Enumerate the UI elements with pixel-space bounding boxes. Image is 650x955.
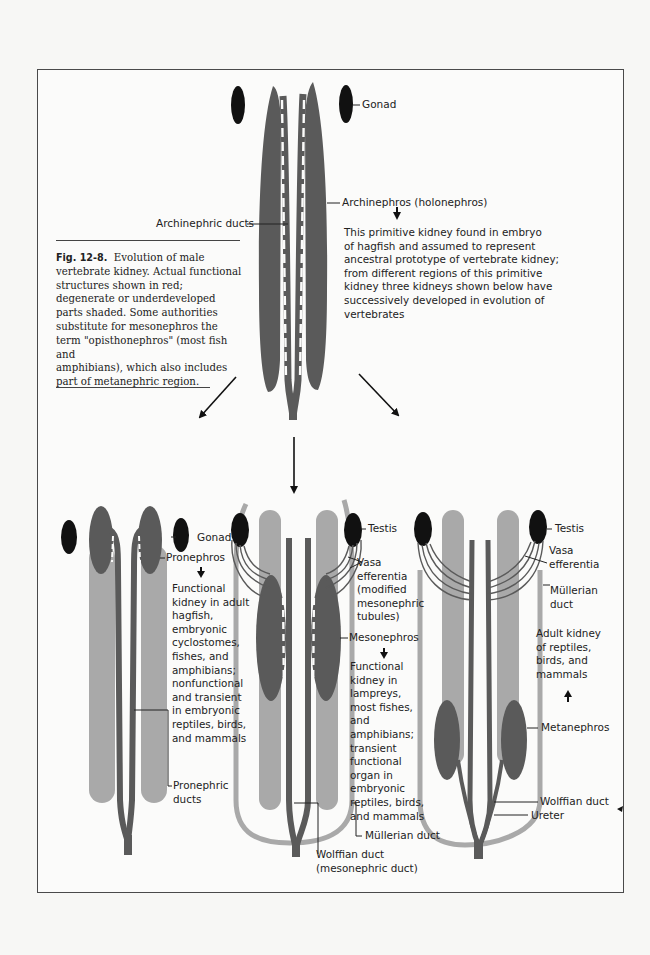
- label-wolffian-duct-mesonephros: Wolffian duct (mesonephric duct): [316, 848, 418, 875]
- metanephros-diagram: [414, 510, 547, 859]
- pronephric-duct-right: [128, 530, 141, 842]
- pronephros-right: [138, 506, 162, 574]
- figure-number: Fig. 12-8.: [56, 252, 107, 263]
- label-gonad: Gonad: [362, 98, 396, 112]
- label-wolffian-duct-metanephros: Wolffian duct: [540, 795, 609, 809]
- label-pronephric-ducts: Pronephric ducts: [173, 779, 229, 806]
- caption-rule-top: [56, 240, 240, 241]
- wolffian-duct-left: [470, 540, 479, 847]
- label-mullerian-duct-metanephros: Müllerian duct: [550, 584, 598, 611]
- shaded-kidney-left: [89, 545, 115, 803]
- shaded-kidney-right: [141, 545, 167, 803]
- testis-left: [231, 513, 249, 547]
- figure-caption: Fig. 12-8. Evolution of male vertebrate …: [56, 251, 246, 389]
- label-testis-metanephros: Testis: [555, 522, 584, 536]
- testis-left: [414, 512, 432, 546]
- gonad-left: [231, 86, 245, 124]
- archinephros-right: [305, 82, 327, 390]
- label-vasa-efferentia-mesonephros: Vasa efferentia (modified mesonephric tu…: [357, 556, 424, 624]
- gonad-left: [61, 520, 77, 554]
- label-metanephros: Metanephros: [541, 721, 610, 735]
- label-testis-mesonephros: Testis: [368, 522, 397, 536]
- archinephros-description: This primitive kidney found in embryo of…: [344, 226, 559, 321]
- wolffian-duct-right: [297, 538, 308, 845]
- mullerian-duct: [420, 570, 540, 845]
- wolffian-duct-left: [289, 538, 295, 845]
- archinephros-left: [259, 86, 281, 392]
- label-archinephric-ducts: Archinephric ducts: [156, 217, 254, 231]
- metanephros-description: Adult kidney of reptiles, birds, and mam…: [536, 627, 601, 681]
- pronephros-description: Functional kidney in adult hagfish, embr…: [172, 582, 249, 745]
- mesonephros-left: [256, 575, 286, 701]
- testis-right: [529, 510, 547, 544]
- label-pronephros: Pronephros: [166, 551, 225, 565]
- metanephros-right: [501, 700, 527, 780]
- pronephros-left: [89, 506, 113, 574]
- label-gonad-pronephros: Gonad: [197, 531, 231, 545]
- metanephros-left: [434, 700, 460, 780]
- gonad-right: [339, 85, 353, 123]
- wolffian-duct-right: [479, 540, 490, 847]
- label-mesonephros: Mesonephros: [349, 631, 419, 645]
- label-ureter: Ureter: [531, 809, 564, 823]
- caption-rule-bottom: [56, 387, 210, 388]
- testis-right: [344, 513, 362, 547]
- label-vasa-efferentia-metanephros: Vasa efferentia: [549, 544, 599, 571]
- mesonephros-description: Functional kidney in lampreys, most fish…: [350, 660, 424, 823]
- label-archinephros: Archinephros (holonephros): [342, 196, 487, 210]
- label-mullerian-duct-mesonephros: Müllerian duct: [365, 829, 440, 843]
- gonad-right: [173, 518, 189, 552]
- archinephros-diagram: [231, 82, 353, 420]
